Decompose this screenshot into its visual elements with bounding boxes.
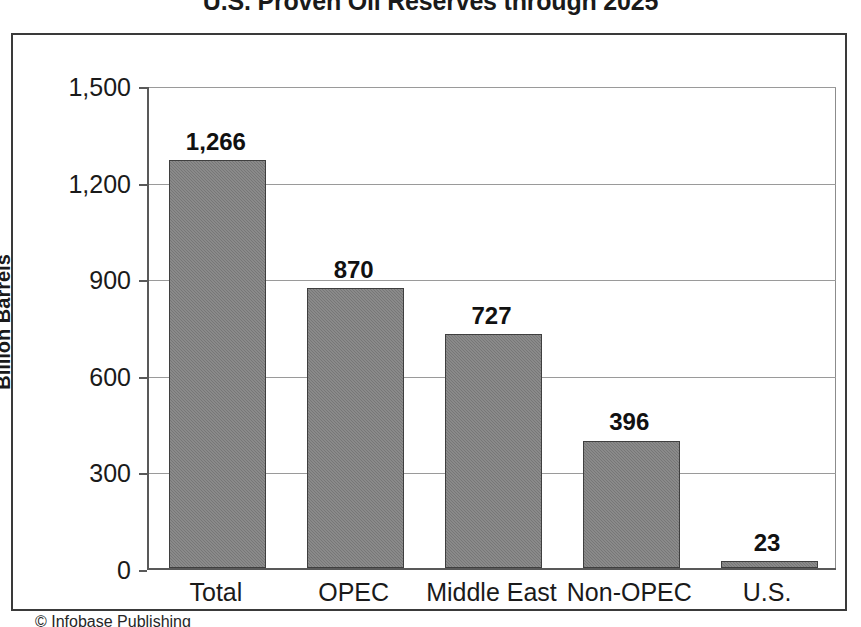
y-tick-label: 600 [21, 362, 131, 391]
publisher-credit: © Infobase Publishing [35, 613, 191, 627]
bar-value-label: 23 [697, 529, 837, 557]
y-axis-title: Billion Barrels [0, 254, 15, 390]
y-tick-label: 1,500 [21, 73, 131, 102]
chart-figure: U.S. Proven Oil Reserves through 2025 Bi… [0, 0, 861, 627]
bar-non-opec[interactable] [583, 441, 680, 569]
y-tick-mark [139, 87, 147, 89]
y-tick-mark [139, 184, 147, 186]
y-tick-label: 1,200 [21, 169, 131, 198]
bar-value-label: 396 [559, 408, 699, 436]
y-tick-mark [139, 377, 147, 379]
bar-value-label: 870 [284, 256, 424, 284]
y-tick-label: 0 [21, 556, 131, 585]
bar-total[interactable] [169, 160, 266, 568]
chart-outer-frame: Billion Barrels 03006009001,2001,500 Tot… [11, 33, 847, 611]
bar-value-label: 727 [422, 302, 562, 330]
plot-border-right [835, 87, 836, 568]
y-tick-mark [139, 570, 147, 572]
bar-opec[interactable] [307, 288, 404, 568]
bar-middle-east[interactable] [445, 334, 542, 568]
chart-title: U.S. Proven Oil Reserves through 2025 [0, 0, 861, 16]
y-tick-label: 900 [21, 266, 131, 295]
gridline [149, 87, 836, 88]
bar-value-label: 1,266 [146, 128, 286, 156]
y-tick-label: 300 [21, 459, 131, 488]
x-tick-label: U.S. [677, 578, 857, 607]
y-tick-mark [139, 280, 147, 282]
y-tick-mark [139, 473, 147, 475]
bar-u-s[interactable] [721, 561, 818, 568]
